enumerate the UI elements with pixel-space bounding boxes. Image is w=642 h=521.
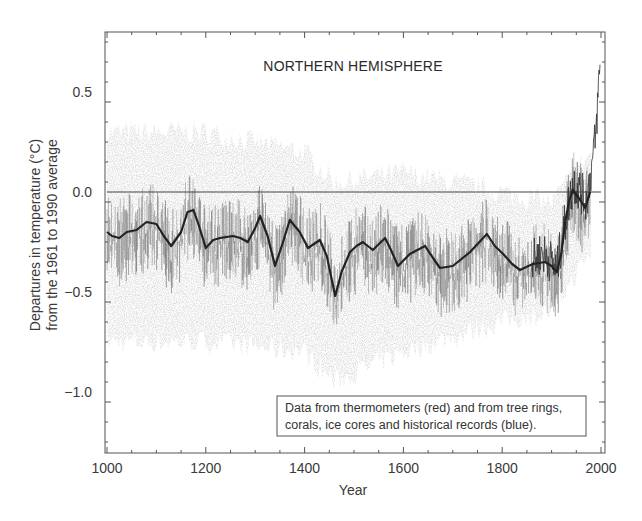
y-tick-label: 0.0 [73,184,93,200]
x-tick-labels: 100012001400160018002000 [91,460,616,476]
y-tick-label: 0.5 [73,84,93,100]
legend-line-2: corals, ice cores and historical records… [285,418,537,432]
temperature-chart: NORTHERN HEMISPHERE 0.50.0−0.5−1.0 10001… [0,0,642,521]
x-axis-title: Year [339,482,368,498]
y-axis-title-line1: Departures in temperature (°C) [27,139,43,331]
y-tick-labels: 0.50.0−0.5−1.0 [64,84,92,400]
legend: Data from thermometers (red) and from tr… [277,396,586,436]
x-tick-label: 1800 [487,460,518,476]
x-tick-label: 1400 [289,460,320,476]
legend-line-1: Data from thermometers (red) and from tr… [285,401,562,415]
x-tick-label: 1200 [190,460,221,476]
y-tick-label: −0.5 [64,284,92,300]
y-axis-title-line2: from the 1961 to 1990 average [44,139,60,331]
x-tick-label: 1000 [91,460,122,476]
x-tick-label: 1600 [388,460,419,476]
x-tick-label: 2000 [585,460,616,476]
chart-title: NORTHERN HEMISPHERE [263,58,442,74]
y-tick-label: −1.0 [64,384,92,400]
